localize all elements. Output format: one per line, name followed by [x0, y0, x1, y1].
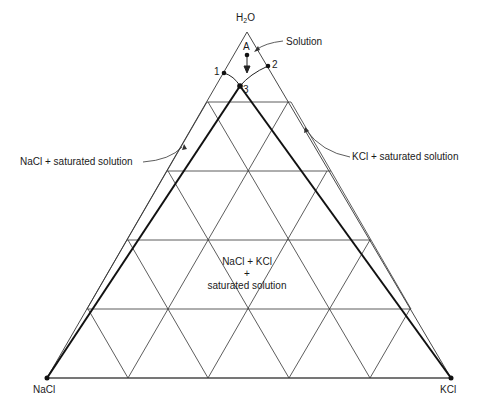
point-label-a: A [243, 41, 250, 53]
outer-triangle [47, 32, 451, 378]
point-2 [266, 64, 271, 69]
point-3 [237, 83, 243, 89]
point-label-2: 2 [272, 59, 278, 71]
point-label-3: 3 [243, 84, 249, 96]
mixed-line-3: saturated solution [197, 280, 297, 292]
vertex-label-nacl: NaCl [33, 384, 55, 396]
point-nacl [45, 376, 50, 381]
grid-horizontal [47, 102, 451, 378]
tie-lines [47, 86, 451, 378]
region-label-nacl-saturated: NaCl + saturated solution [20, 156, 133, 168]
point-kcl [449, 376, 454, 381]
region-label-solution: Solution [286, 36, 322, 48]
ternary-diagram [0, 0, 485, 410]
point-label-1: 1 [214, 66, 220, 78]
vertex-label-water: H2O [236, 12, 255, 27]
mixed-line-2: + [197, 268, 297, 280]
point-a [245, 53, 250, 58]
point-1 [222, 71, 227, 76]
arrow-a-to-3 [244, 56, 250, 73]
region-label-mixed: NaCl + KCl + saturated solution [197, 256, 297, 292]
mixed-line-1: NaCl + KCl [197, 256, 297, 268]
water-o: O [247, 12, 255, 23]
leader-arrowheads [182, 46, 309, 150]
vertex-label-kcl: KCl [440, 384, 456, 396]
region-label-kcl-saturated: KCl + saturated solution [352, 151, 458, 163]
